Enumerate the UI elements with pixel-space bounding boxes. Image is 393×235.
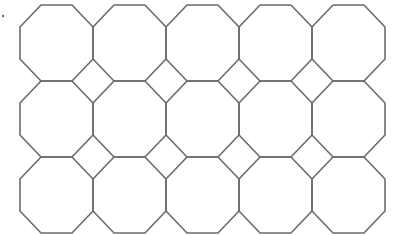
octagon-tile — [312, 157, 385, 233]
octagon-tile — [20, 157, 93, 233]
octagon-tile — [239, 157, 312, 233]
octagon-tile — [166, 81, 239, 157]
octagon-tile — [93, 157, 166, 233]
octagon-tile — [312, 5, 385, 81]
octagon-group — [20, 5, 385, 233]
stray-dot-marker — [2, 15, 4, 17]
octagon-tile — [239, 5, 312, 81]
octagon-tile — [166, 157, 239, 233]
octagon-tile — [312, 81, 385, 157]
octagon-square-tiling — [0, 0, 393, 235]
octagon-tile — [20, 5, 93, 81]
octagon-tile — [166, 5, 239, 81]
octagon-tile — [93, 81, 166, 157]
octagon-tile — [239, 81, 312, 157]
octagon-tile — [20, 81, 93, 157]
octagon-tile — [93, 5, 166, 81]
